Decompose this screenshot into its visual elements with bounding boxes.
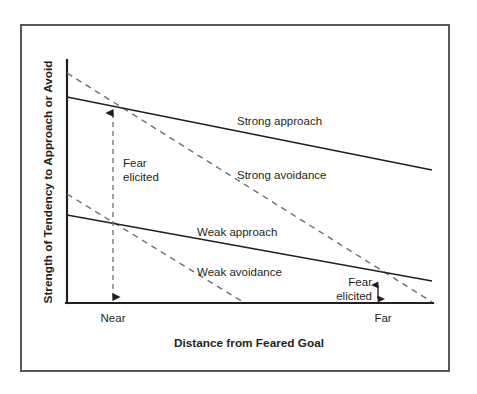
series-label-weak-avoidance: Weak avoidance bbox=[197, 266, 282, 278]
series-line-strong-approach bbox=[67, 97, 432, 170]
fear-near-label-line2: elicited bbox=[123, 171, 159, 183]
series-label-strong-avoidance: Strong avoidance bbox=[237, 169, 327, 181]
x-tick-label-near: Near bbox=[101, 312, 126, 324]
annotation-fear-elicited-near: Fear elicited bbox=[113, 113, 159, 297]
series-label-weak-approach: Weak approach bbox=[197, 226, 277, 238]
y-axis-title: Strength of Tendency to Approach or Avoi… bbox=[41, 61, 55, 304]
x-axis-title: Distance from Feared Goal bbox=[174, 336, 324, 350]
fear-near-label-line1: Fear bbox=[123, 157, 147, 169]
axis-titles-group: Distance from Feared Goal Strength of Te… bbox=[41, 61, 324, 350]
chart-canvas: Fear elicited Fear elicited Strong appro… bbox=[0, 0, 477, 394]
tick-labels-group: Near Far bbox=[101, 312, 392, 324]
x-tick-label-far: Far bbox=[374, 312, 391, 324]
series-labels-group: Strong approach Strong avoidance Weak ap… bbox=[197, 115, 327, 278]
figure-root: Fear elicited Fear elicited Strong appro… bbox=[0, 0, 477, 394]
series-label-strong-approach: Strong approach bbox=[237, 115, 322, 127]
annotation-fear-elicited-far: Fear elicited bbox=[336, 276, 378, 302]
fear-far-label-line2: elicited bbox=[336, 290, 372, 302]
series-line-weak-avoidance bbox=[67, 194, 243, 302]
fear-far-label-line1: Fear bbox=[348, 276, 372, 288]
